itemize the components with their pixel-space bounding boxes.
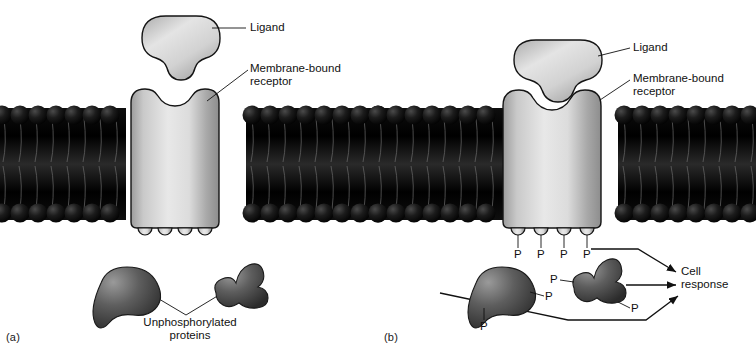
- receptor-phosphate-stems: [518, 235, 587, 248]
- lipid-bilayer-left: [0, 106, 388, 223]
- label-receptor-a: Membrane-bound receptor: [250, 62, 341, 88]
- panel-b-graphics: [378, 0, 756, 349]
- phosphate-protein-left-2: P: [480, 320, 488, 332]
- panel-label-a: (a): [6, 331, 20, 343]
- label-ligand-a: Ligand: [250, 21, 285, 34]
- cell-response-arrows: [440, 249, 678, 320]
- phosphate-receptor-2: P: [537, 248, 545, 260]
- panel-b: P P P P P P P P Ligand Membrane-bound re…: [378, 0, 756, 349]
- panel-a: Ligand Membrane-bound receptor Unphospho…: [0, 0, 378, 349]
- leader-lines-a: [154, 28, 248, 315]
- phosphate-receptor-3: P: [560, 248, 568, 260]
- label-ligand-b: Ligand: [633, 41, 668, 54]
- ligand-a: [142, 16, 220, 80]
- phosphate-receptor-4: P: [583, 248, 591, 260]
- membrane-bound-receptor-b: [503, 90, 601, 235]
- phosphorylated-protein-right-b: [560, 259, 630, 308]
- phosphorylated-protein-left-b: [468, 267, 544, 328]
- figure-canvas: Ligand Membrane-bound receptor Unphospho…: [0, 0, 756, 349]
- phosphate-protein-right-2: P: [631, 302, 639, 314]
- panel-label-b: (b): [384, 331, 398, 343]
- leader-lines-b: [598, 48, 630, 100]
- phosphate-protein-left-1: P: [545, 290, 553, 302]
- membrane-bound-receptor-a: [131, 89, 219, 235]
- label-unphosphorylated-proteins-a: Unphosphorylated proteins: [124, 316, 256, 342]
- phosphate-protein-right-1: P: [550, 273, 558, 285]
- lipid-bilayer-right: [369, 106, 756, 223]
- label-cell-response-b: Cell response: [681, 265, 728, 291]
- unphosphorylated-protein-right-a: [215, 264, 268, 308]
- panel-a-graphics: [0, 0, 378, 349]
- ligand-b: [514, 40, 602, 102]
- phosphate-receptor-1: P: [514, 248, 522, 260]
- label-receptor-b: Membrane-bound receptor: [633, 72, 724, 98]
